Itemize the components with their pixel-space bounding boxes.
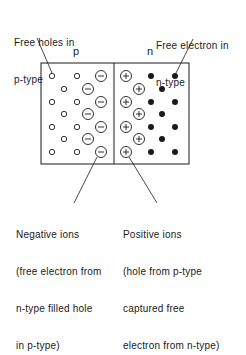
positive-ions-line-1: Positive ions — [123, 229, 219, 241]
hole-icon — [74, 124, 79, 129]
positive-ion-icon — [134, 109, 145, 120]
positive-ions-line-3: captured free — [123, 303, 219, 315]
hole-icon — [49, 124, 54, 129]
negative-ion-icon — [83, 109, 94, 120]
electron-icon — [148, 73, 154, 79]
hole-icon — [74, 149, 79, 154]
positive-ion-icon — [121, 97, 132, 108]
negative-ions-line-3: n-type filled hole — [16, 303, 102, 315]
negative-ions-group — [83, 71, 107, 158]
negative-ions-label: Negative ions (free electron from n-type… — [16, 204, 102, 355]
free-electron-leader — [176, 39, 193, 73]
hole-icon — [61, 136, 66, 141]
positive-ions-line-2: (hole from p-type — [123, 266, 219, 278]
negative-ion-icon — [96, 147, 107, 158]
negative-ion-icon — [96, 71, 107, 82]
negative-ions-line-2: (free electron from — [16, 266, 102, 278]
electron-icon — [159, 86, 165, 92]
negative-ion-icon — [96, 97, 107, 108]
electrons-group — [148, 73, 178, 155]
electron-icon — [148, 149, 154, 155]
hole-icon — [49, 99, 54, 104]
electron-icon — [148, 99, 154, 105]
negative-ions-line-4: in p-type) — [16, 340, 102, 352]
positive-ions-line-4: electron from n-type) — [123, 340, 219, 352]
negative-ions-line-1: Negative ions — [16, 229, 102, 241]
positive-ion-icon — [121, 122, 132, 133]
positive-ions-label: Positive ions (hole from p-type captured… — [123, 204, 219, 355]
negative-ion-icon — [96, 122, 107, 133]
positive-ion-icon — [134, 84, 145, 95]
hole-icon — [49, 149, 54, 154]
positive-ions-group — [121, 71, 145, 158]
hole-icon — [61, 86, 66, 91]
hole-icon — [49, 73, 54, 78]
electron-icon — [159, 111, 165, 117]
holes-group — [49, 73, 79, 154]
electron-icon — [172, 73, 178, 79]
electron-icon — [172, 99, 178, 105]
negative-ion-icon — [83, 84, 94, 95]
negative-ion-icon — [83, 134, 94, 145]
electron-icon — [172, 124, 178, 130]
hole-icon — [74, 99, 79, 104]
hole-icon — [61, 111, 66, 116]
hole-icon — [74, 73, 79, 78]
positive-ion-icon — [121, 71, 132, 82]
positive-ion-icon — [121, 147, 132, 158]
electron-icon — [148, 124, 154, 130]
electron-icon — [172, 149, 178, 155]
positive-ion-icon — [134, 134, 145, 145]
free-holes-leader — [37, 38, 52, 73]
electron-icon — [159, 136, 165, 142]
